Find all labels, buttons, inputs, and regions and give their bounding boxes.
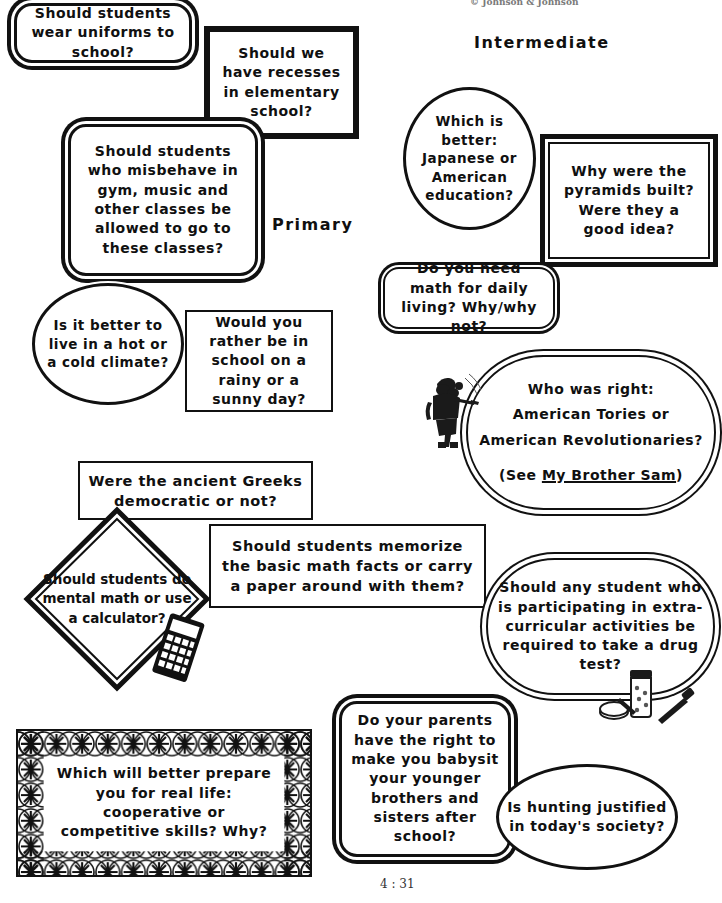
question-pyramids-text: Why were the pyramids built? Were they a… [550,158,708,243]
question-hunting: Is hunting justified in today's society? [496,764,678,870]
question-rainy-text: Would you rather be in school on a rainy… [187,309,331,414]
question-cooperative-inner: Which will better prepare you for real l… [44,757,284,849]
question-tories-line1: Who was right: [468,380,714,399]
question-cooperative: Which will better prepare you for real l… [16,729,312,877]
question-tories-line3: American Revolutionaries? [468,431,714,450]
question-misbehave-text: Should students who misbehave in gym, mu… [71,138,255,262]
section-label-intermediate: Intermediate [474,33,610,52]
question-tories-line2: American Tories or [468,405,714,424]
section-label-primary: Primary [272,215,353,234]
question-daily-math-text: Do you need math for daily living? Why/w… [385,255,553,340]
colonial-soldiers-icon [419,372,481,450]
question-uniforms-text: Should students wear uniforms to school? [17,0,189,66]
question-recesses-text: Should we have recesses in elementary sc… [210,40,353,125]
question-tories-line4-pre: (See [499,467,542,483]
question-tories: Who was right: American Tories or Americ… [466,355,716,510]
question-tories-text: Who was right: American Tories or Americ… [460,376,722,489]
question-uniforms: Should students wear uniforms to school? [14,3,192,63]
question-daily-math: Do you need math for daily living? Why/w… [383,267,555,329]
question-rainy: Would you rather be in school on a rainy… [185,310,333,412]
question-climate: Is it better to live in a hot or a cold … [32,283,184,405]
question-tories-book-title: My Brother Sam [542,467,676,483]
question-memorize: Should students memorize the basic math … [209,524,486,608]
question-climate-text: Is it better to live in a hot or a cold … [35,312,181,376]
question-recesses: Should we have recesses in elementary sc… [204,26,359,139]
question-tories-line4: (See My Brother Sam) [468,466,714,485]
page-header: © Johnson & Johnson [470,0,578,7]
question-misbehave: Should students who misbehave in gym, mu… [68,124,258,276]
question-pyramids: Why were the pyramids built? Were they a… [548,142,710,259]
pills-and-syringe-icon [598,664,696,726]
question-japanese: Which is better: Japanese or American ed… [403,87,536,230]
question-babysit: Do your parents have the right to make y… [339,701,511,857]
calculator-icon [148,613,210,685]
question-babysit-text: Do your parents have the right to make y… [342,707,508,850]
page-footer: 4 : 31 [380,877,415,891]
question-hunting-text: Is hunting justified in today's society? [499,794,675,841]
question-cooperative-text: Which will better prepare you for real l… [45,760,283,845]
question-japanese-text: Which is better: Japanese or American ed… [406,108,533,209]
question-tories-line4-post: ) [676,467,683,483]
question-memorize-text: Should students memorize the basic math … [211,532,484,600]
